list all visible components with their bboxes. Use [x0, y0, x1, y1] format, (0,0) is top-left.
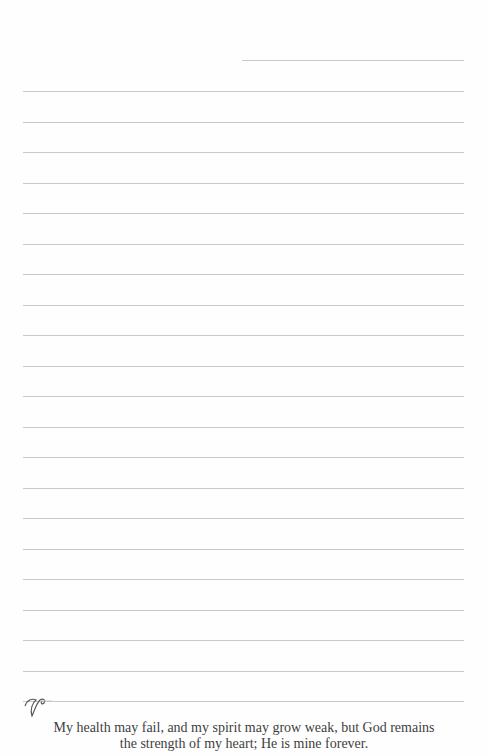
writing-line [23, 518, 464, 519]
writing-line [23, 335, 464, 336]
writing-line [23, 183, 464, 184]
writing-line [23, 152, 464, 153]
flourish-line [48, 701, 464, 702]
journal-page: My health may fail, and my spirit may gr… [0, 0, 488, 756]
writing-line [23, 427, 464, 428]
writing-line [23, 396, 464, 397]
quote-line-1: My health may fail, and my spirit may gr… [20, 720, 468, 736]
writing-line [23, 488, 464, 489]
scripture-quote: My health may fail, and my spirit may gr… [20, 720, 468, 752]
writing-line [23, 122, 464, 123]
quote-line-2: the strength of my heart; He is mine for… [20, 736, 468, 752]
writing-line [23, 305, 464, 306]
writing-line [23, 244, 464, 245]
flourish-icon [22, 694, 52, 720]
ruled-lines [0, 0, 488, 756]
writing-line [23, 549, 464, 550]
writing-line [23, 640, 464, 641]
writing-line [23, 213, 464, 214]
writing-line [23, 671, 464, 672]
writing-line [23, 274, 464, 275]
writing-line [23, 579, 464, 580]
writing-line [23, 366, 464, 367]
writing-line [23, 457, 464, 458]
writing-line [23, 610, 464, 611]
writing-line [23, 91, 464, 92]
